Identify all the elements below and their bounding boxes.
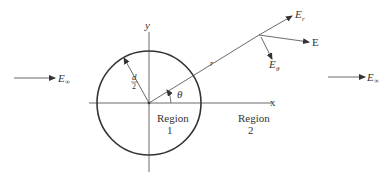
e-total-label: E — [312, 36, 319, 48]
incident-field-right-subscript: ∞ — [374, 77, 379, 85]
region-2-number: 2 — [248, 124, 254, 136]
e-r-arrow — [259, 16, 292, 35]
angle-label: θ — [177, 88, 183, 100]
e-total-arrow — [259, 35, 309, 42]
incident-field-left-subscript: ∞ — [65, 78, 70, 86]
region-1-label: Region — [157, 112, 189, 124]
e-theta-arrow — [261, 37, 272, 59]
incident-field-left-label: E — [57, 72, 65, 84]
e-theta-label: E — [268, 58, 276, 70]
region-1-number: 1 — [167, 124, 173, 136]
y-axis-label: y — [144, 19, 150, 31]
x-axis-label: x — [270, 96, 276, 108]
radius-label-denominator: 2 — [132, 82, 136, 91]
radial-line — [149, 35, 259, 103]
region-2-label: Region — [238, 112, 270, 124]
e-r-subscript: r — [302, 15, 305, 23]
e-r-label: E — [294, 8, 302, 20]
radius-label-numerator: d — [132, 72, 137, 82]
diagram-canvas: x y d 2 r θ Region 1 Region 2 E r E E θ — [0, 0, 389, 180]
radius-arrow — [124, 58, 149, 103]
incident-field-right-label: E — [366, 71, 374, 83]
e-theta-subscript: θ — [276, 65, 280, 73]
